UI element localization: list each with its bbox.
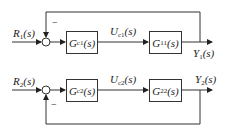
loop-2-lines [12,86,212,124]
block-diagram-lines [0,0,227,132]
plant-g11-block: G11(s) [149,31,182,54]
controller-gc2-block: Gc2(s) [66,79,98,102]
input-r2-label: R2(s) [13,76,35,89]
plant-g22-block: G22(s) [149,79,182,102]
signal-uc1-label: Uc1(s) [110,26,136,39]
signal-uc2-label: Uc2(s) [110,74,136,87]
feedback-sign-2: − [51,100,57,110]
feedback-sign-1: − [52,18,58,28]
output-y1-label: Y1(s) [193,48,214,61]
output-y2-label: Y2(s) [195,74,216,87]
controller-gc1-block: Gc1(s) [66,31,98,54]
input-r1-label: R1(s) [13,28,35,41]
